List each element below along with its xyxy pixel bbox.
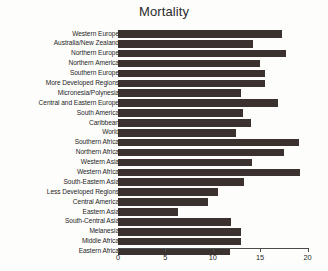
bar-track (118, 178, 318, 186)
bar-track (118, 198, 318, 206)
category-label: Eastern Africa (1, 246, 119, 256)
category-label: Central America (1, 197, 119, 207)
bar-track (118, 30, 318, 38)
category-label: South-Eastern Asia (1, 177, 119, 187)
bar-track (118, 70, 318, 78)
bar (118, 228, 241, 236)
x-tick (118, 248, 119, 252)
bar-track (118, 60, 318, 68)
category-label: World (1, 127, 119, 137)
category-label: Western Asia (1, 157, 119, 167)
bar (118, 198, 208, 206)
bar-track (118, 80, 318, 88)
bar-track (118, 188, 318, 196)
x-tick (213, 248, 214, 252)
chart-title: Mortality (0, 4, 328, 19)
x-tick (165, 248, 166, 252)
x-tick-label: 0 (116, 253, 120, 262)
bar-track (118, 159, 318, 167)
bar (118, 119, 251, 127)
bar (118, 139, 299, 147)
bar (118, 99, 278, 107)
bar-track (118, 139, 318, 147)
category-label: Australia/New Zealand (1, 38, 119, 48)
bar-track (118, 149, 318, 157)
bar-track (118, 109, 318, 117)
category-label: Micronesia/Polynesia (1, 88, 119, 98)
x-tick (260, 248, 261, 252)
bar-track (118, 169, 318, 177)
category-label: Eastern Asia (1, 207, 119, 217)
category-label: More Developed Regions (1, 78, 119, 88)
bar (118, 80, 265, 88)
bar-track (118, 129, 318, 137)
bar (118, 60, 260, 68)
category-label: Caribbean (1, 118, 119, 128)
chart-page: Mortality Western EuropeAustralia/New Ze… (0, 0, 328, 271)
bar (118, 149, 284, 157)
bar-track (118, 89, 318, 97)
x-tick-label: 20 (303, 253, 311, 262)
category-label: Middle Africa (1, 236, 119, 246)
bar (118, 218, 231, 226)
category-label: Northern Europe (1, 48, 119, 58)
bar (118, 188, 218, 196)
plot-area: Western EuropeAustralia/New ZealandNorth… (0, 29, 328, 249)
category-label: South-Central Asia (1, 216, 119, 226)
bar (118, 70, 265, 78)
bar (118, 109, 243, 117)
x-tick-label: 15 (256, 253, 264, 262)
category-label: Western Europe (1, 29, 119, 39)
bar (118, 40, 253, 48)
category-label: Less Developed Regions (1, 187, 119, 197)
bar-rows: Western EuropeAustralia/New ZealandNorth… (0, 29, 328, 256)
bar (118, 30, 282, 38)
category-label: Southern Europe (1, 68, 119, 78)
category-label: Northern America (1, 58, 119, 68)
bar (118, 129, 236, 137)
category-label: Southern Africa (1, 137, 119, 147)
bar (118, 50, 286, 58)
bar (118, 89, 241, 97)
bar-track (118, 228, 318, 236)
bar-track (118, 238, 318, 246)
bar (118, 169, 300, 177)
bar-track (118, 50, 318, 58)
bar-track (118, 40, 318, 48)
x-tick-label: 10 (209, 253, 217, 262)
category-label: Western Africa (1, 167, 119, 177)
bar-track (118, 99, 318, 107)
bar (118, 238, 241, 246)
x-tick-label: 5 (163, 253, 167, 262)
bar-track (118, 119, 318, 127)
category-label: Melanesia (1, 226, 119, 236)
bar-track (118, 218, 318, 226)
x-tick (308, 248, 309, 252)
bar (118, 159, 252, 167)
bar (118, 208, 178, 216)
category-label: South America (1, 108, 119, 118)
bar-track (118, 208, 318, 216)
category-label: Northern Africa (1, 147, 119, 157)
category-label: Central and Eastern Europe (1, 98, 119, 108)
bar (118, 178, 244, 186)
